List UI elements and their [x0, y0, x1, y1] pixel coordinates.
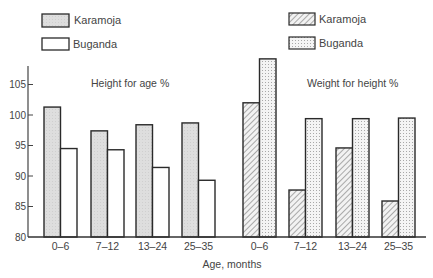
bar-buganda-7–12 — [108, 150, 125, 237]
bar-buganda-0–6 — [61, 149, 78, 237]
legend-swatch-karamoja-weight — [289, 13, 315, 25]
y-tick-label: 85 — [15, 201, 27, 212]
bar-karamoja-7–12 — [91, 131, 108, 237]
legend-label-buganda-weight: Buganda — [319, 37, 364, 49]
bar-buganda-13–24 — [353, 119, 370, 237]
bar-karamoja-13–24 — [336, 148, 353, 237]
y-tick-label: 90 — [15, 171, 27, 182]
bar-karamoja-0–6 — [44, 107, 61, 237]
chart: Karamoja Buganda Karamoja Buganda Height… — [0, 0, 433, 278]
bar-karamoja-25–35 — [182, 123, 199, 237]
legend-right: Karamoja Buganda — [289, 13, 367, 49]
panel-title-weight-for-height: Weight for height % — [307, 77, 398, 89]
x-tick-label: 7–12 — [96, 240, 120, 252]
x-tick-label: 7–12 — [294, 240, 318, 252]
bar-karamoja-13–24 — [136, 125, 153, 237]
x-tick-label: 13–24 — [338, 240, 367, 252]
y-tick-label: 80 — [15, 232, 27, 243]
x-tick-label: 25–35 — [184, 240, 213, 252]
bar-buganda-7–12 — [306, 119, 323, 237]
bar-karamoja-0–6 — [243, 103, 260, 237]
legend-swatch-buganda-height — [42, 38, 69, 50]
x-axis-label: Age, months — [203, 258, 262, 270]
legend-label-karamoja-height: Karamoja — [74, 14, 122, 26]
panel-title-height-for-age: Height for age % — [91, 77, 169, 89]
legend-swatch-karamoja-height — [42, 14, 69, 27]
bar-buganda-25–35 — [399, 118, 416, 237]
y-tick-label: 100 — [9, 110, 26, 121]
y-tick-label: 105 — [9, 79, 26, 90]
bar-karamoja-25–35 — [382, 201, 399, 237]
legend-label-karamoja-weight: Karamoja — [319, 13, 367, 25]
x-tick-labels: 0–67–1213–2425–350–67–1213–2425–35 — [52, 240, 414, 252]
bar-karamoja-7–12 — [289, 190, 306, 237]
x-tick-label: 13–24 — [138, 240, 167, 252]
x-tick-label: 0–6 — [52, 240, 70, 252]
legend-left: Karamoja Buganda — [42, 14, 122, 50]
legend-label-buganda-height: Buganda — [73, 38, 118, 50]
y-axis: 80859095100105 — [9, 66, 33, 243]
x-tick-label: 0–6 — [251, 240, 269, 252]
bar-buganda-25–35 — [199, 180, 216, 237]
x-tick-label: 25–35 — [384, 240, 413, 252]
legend-swatch-buganda-weight — [289, 37, 315, 49]
bar-buganda-0–6 — [260, 59, 277, 237]
bar-buganda-13–24 — [153, 167, 170, 237]
y-tick-label: 95 — [15, 140, 27, 151]
